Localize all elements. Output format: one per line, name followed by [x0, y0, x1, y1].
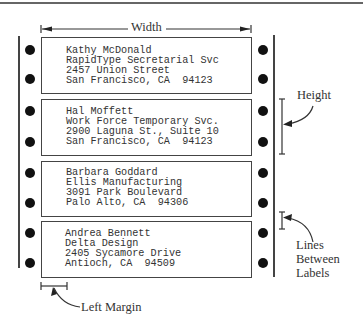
left-margin-label: Left Margin [81, 300, 142, 315]
lines-between-labels-line-3: Labels [296, 266, 329, 281]
height-label: Height [297, 88, 331, 103]
width-label: Width [131, 20, 162, 35]
dimension-annotations [0, 0, 363, 333]
lines-between-labels-line-2: Between [296, 252, 340, 267]
label-layout-diagram: Kathy McDonald RapidType Secretarial Svc… [0, 0, 363, 333]
lines-between-labels-line-1: Lines [296, 238, 324, 253]
